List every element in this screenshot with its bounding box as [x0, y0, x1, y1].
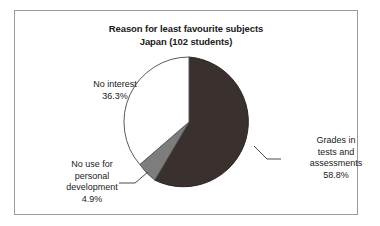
slice-label-no-interest: No interest 36.3%	[67, 79, 163, 102]
slice-label-no-use-line-1: No use for	[37, 159, 147, 171]
slice-label-grades-line-2: tests and	[293, 147, 379, 159]
slice-label-no-interest-line-1: No interest	[67, 79, 163, 91]
chart-frame: Reason for least favourite subjects Japa…	[14, 10, 358, 215]
slice-label-grades-line-1: Grades in	[293, 135, 379, 147]
slice-label-no-interest-value: 36.3%	[67, 91, 163, 103]
leader-line-grades	[254, 146, 281, 159]
slice-label-no-use-value: 4.9%	[37, 194, 147, 206]
slice-label-no-use-line-2: personal	[37, 171, 147, 183]
slice-label-no-use-line-3: development	[37, 182, 147, 194]
slice-label-grades-value: 58.8%	[293, 170, 379, 182]
slice-label-no-use-for-personal-development: No use for personal development 4.9%	[37, 159, 147, 205]
slice-label-grades-in-tests-and-assessments: Grades in tests and assessments 58.8%	[293, 135, 379, 181]
slice-label-grades-line-3: assessments	[293, 158, 379, 170]
